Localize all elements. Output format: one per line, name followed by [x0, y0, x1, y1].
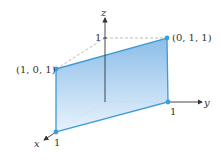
vertex-1-0-0	[54, 130, 59, 135]
point-label-1-0-1: (1, 0, 1)	[16, 64, 56, 75]
vertex-0-1-1	[165, 36, 170, 41]
plane-surface	[56, 38, 168, 132]
y-tick-label: 1	[170, 106, 176, 117]
x-axis-label: x	[34, 138, 40, 149]
x-tick-label: 1	[54, 137, 60, 148]
3d-plane-diagram: z y x 1 1 1 (1, 0, 1) (0, 1, 1)	[0, 0, 221, 160]
z-tick-label: 1	[95, 32, 101, 43]
point-label-0-1-1: (0, 1, 1)	[172, 32, 212, 43]
y-axis-label: y	[203, 97, 210, 108]
z-axis-label: z	[100, 7, 107, 18]
vertex-0-1-0	[166, 100, 171, 105]
